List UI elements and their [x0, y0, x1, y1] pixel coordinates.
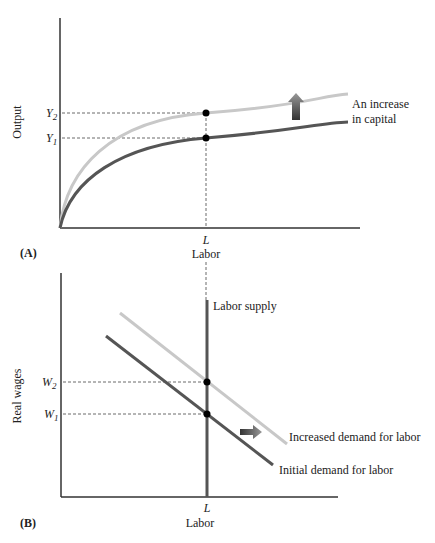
initial-demand-label: Initial demand for labor [279, 463, 393, 477]
panel-b-label: (B) [20, 516, 36, 530]
panel-b-ylabel: Real wages [10, 368, 24, 423]
increased-demand-curve [120, 313, 287, 444]
panel-a-ylabel: Output [10, 105, 24, 139]
initial-demand-curve [106, 336, 273, 465]
increased-demand-label: Increased demand for labor [289, 430, 421, 444]
capital-annotation-line1: An increase [352, 97, 409, 111]
point-w2 [204, 379, 211, 386]
point-w1 [204, 411, 211, 418]
panel-a-xlabel: Labor [192, 247, 221, 261]
panel-a-label: (A) [20, 246, 37, 260]
panel-b-xlabel: Labor [186, 516, 215, 530]
point-y2 [203, 110, 210, 117]
panel-a: Output Y2 Y1 L Labor (A) An increase in … [10, 18, 409, 300]
w1-tick-label: W1 [44, 407, 59, 423]
panel-b-l-tick: L [203, 501, 211, 515]
y1-tick-label: Y1 [46, 131, 57, 147]
panel-a-l-tick: L [202, 233, 210, 247]
capital-annotation-line2: in capital [352, 112, 397, 126]
shift-up-arrow-icon [288, 93, 304, 120]
w2-tick-label: W2 [42, 375, 57, 391]
panel-b: Real wages W2 W1 L Labor (B) Labor suppl… [10, 273, 421, 530]
y2-tick-label: Y2 [46, 106, 58, 122]
labor-supply-label: Labor supply [213, 299, 277, 313]
point-y1 [203, 135, 210, 142]
figure: Output Y2 Y1 L Labor (A) An increase in … [0, 0, 435, 543]
shift-right-arrow-icon [240, 425, 262, 439]
